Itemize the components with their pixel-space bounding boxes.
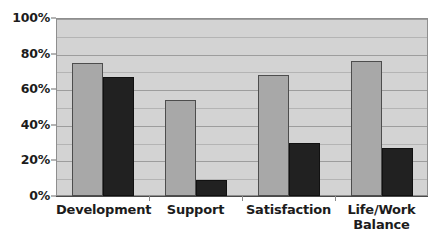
x-axis-tick-mark: [149, 196, 150, 201]
x-axis-category-label-line: Life/Work: [335, 203, 428, 218]
bar-series-b-2: [289, 143, 320, 196]
bar-series-a-0: [72, 63, 103, 197]
y-axis-tick-mark: [51, 89, 56, 90]
bar-series-a-2: [258, 75, 289, 196]
x-axis-category-label: Support: [149, 203, 242, 218]
x-axis-category-label-line: Support: [149, 203, 242, 218]
bar-group: [242, 18, 335, 196]
x-axis-category-label: Life/WorkBalance: [335, 203, 428, 232]
bar-series-b-3: [382, 148, 413, 196]
y-axis-tick-mark: [51, 160, 56, 161]
y-axis-tick-label: 80%: [0, 47, 50, 60]
y-axis-tick-label: 100%: [0, 12, 50, 25]
x-axis-category-label-line: Satisfaction: [242, 203, 335, 218]
y-axis-tick-mark: [51, 196, 56, 197]
bar-series-b-0: [103, 77, 134, 196]
bar-series-b-1: [196, 180, 227, 196]
x-axis-category-label: Satisfaction: [242, 203, 335, 218]
x-axis-category-label-line: Development: [56, 203, 149, 218]
bar-chart: 0%20%40%60%80%100% DevelopmentSupportSat…: [0, 0, 446, 239]
y-axis: 0%20%40%60%80%100%: [0, 0, 50, 239]
bars-layer: [56, 18, 428, 196]
bar-series-a-1: [165, 100, 196, 196]
y-axis-tick-label: 0%: [0, 190, 50, 203]
y-axis-tick-mark: [51, 18, 56, 19]
bar-group: [335, 18, 428, 196]
y-axis-tick-label: 20%: [0, 154, 50, 167]
x-axis-category-label-line: Balance: [335, 218, 428, 233]
bar-group: [56, 18, 149, 196]
bar-group: [149, 18, 242, 196]
bar-series-a-3: [351, 61, 382, 196]
y-axis-tick-mark: [51, 53, 56, 54]
y-axis-tick-label: 40%: [0, 119, 50, 132]
x-axis-tick-mark: [242, 196, 243, 201]
y-axis-tick-label: 60%: [0, 83, 50, 96]
y-axis-tick-mark: [51, 124, 56, 125]
x-axis-tick-mark: [335, 196, 336, 201]
x-axis-category-label: Development: [56, 203, 149, 218]
